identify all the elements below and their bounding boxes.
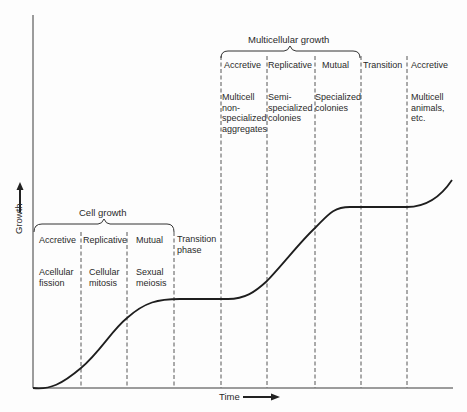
phase-desc: Sexual meiosis xyxy=(136,267,167,288)
phase-desc-line: etc. xyxy=(411,113,445,124)
phase-header: Mutual xyxy=(322,60,349,71)
phase-header: Transition xyxy=(363,60,402,71)
phase-desc-line: meiosis xyxy=(136,278,167,289)
phase-desc-line: Cellular xyxy=(89,267,120,278)
phase-header: Replicative xyxy=(268,60,312,71)
cell-growth-brace xyxy=(34,219,174,232)
phase-header: Transition phase xyxy=(177,234,216,255)
phase-header: Accretive xyxy=(411,60,448,71)
phase-desc: Multicell animals, etc. xyxy=(411,92,445,124)
phase-header: Replicative xyxy=(83,235,127,246)
phase-desc: Multicell non- specialized aggregates xyxy=(222,92,267,134)
phase-desc-line: Acellular xyxy=(39,267,74,278)
phase-desc: Semi- specialized colonies xyxy=(268,92,313,124)
x-axis-arrow-icon xyxy=(243,394,280,401)
phase-desc-line: specialized xyxy=(222,113,267,124)
phase-desc-line: aggregates xyxy=(222,124,267,135)
phase-desc-line: non- xyxy=(222,103,267,114)
phase-desc: Acellular fission xyxy=(39,267,74,288)
phase-desc-line: Specialized xyxy=(315,92,361,103)
phase-header: Accretive xyxy=(224,60,261,71)
phase-header-line: phase xyxy=(177,245,216,256)
phase-desc-line: colonies xyxy=(315,103,361,114)
phase-desc-line: mitosis xyxy=(89,278,120,289)
phase-desc-line: animals, xyxy=(411,103,445,114)
phase-header: Accretive xyxy=(39,235,76,246)
multicellular-growth-brace xyxy=(221,46,360,58)
phase-desc-line: colonies xyxy=(268,113,313,124)
phase-desc: Specialized colonies xyxy=(315,92,361,113)
phase-header-line: Transition xyxy=(177,234,216,245)
group-title-multicellular-growth: Multicellular growth xyxy=(248,34,329,45)
phase-desc-line: Multicell xyxy=(411,92,445,103)
phase-desc: Cellular mitosis xyxy=(89,267,120,288)
phase-desc-line: fission xyxy=(39,278,74,289)
phase-desc-line: Sexual xyxy=(136,267,167,278)
phase-header: Mutual xyxy=(136,235,163,246)
phase-desc-line: specialized xyxy=(268,103,313,114)
x-axis-label: Time xyxy=(219,391,240,402)
y-axis-label: Growth xyxy=(13,203,24,234)
group-title-cell-growth: Cell growth xyxy=(79,207,127,218)
phase-desc-line: Semi- xyxy=(268,92,313,103)
phase-desc-line: Multicell xyxy=(222,92,267,103)
